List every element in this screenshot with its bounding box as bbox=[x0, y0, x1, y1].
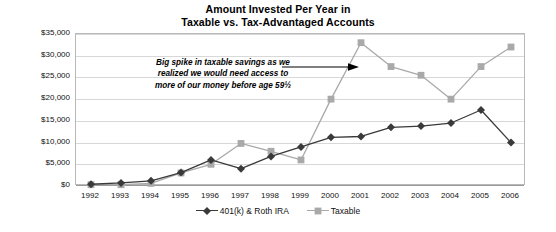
data-point-marker bbox=[388, 63, 395, 70]
x-axis-tick-label: 2006 bbox=[501, 191, 519, 200]
x-axis-labels: 1992199319941995199619971998199920002001… bbox=[75, 189, 525, 203]
legend-marker-diamond-icon bbox=[203, 207, 211, 215]
data-point-marker bbox=[387, 123, 395, 131]
data-point-marker bbox=[358, 39, 365, 46]
data-point-marker bbox=[237, 165, 245, 173]
data-point-marker bbox=[417, 122, 425, 130]
data-point-marker bbox=[238, 140, 245, 147]
data-point-marker bbox=[447, 119, 455, 127]
data-point-marker bbox=[448, 96, 455, 103]
y-axis-labels: $0$5,000$10,000$15,000$20,000$25,000$30,… bbox=[4, 33, 70, 185]
x-axis-tick-label: 1997 bbox=[231, 191, 249, 200]
x-axis-tick-label: 2001 bbox=[351, 191, 369, 200]
x-axis-tick-label: 2002 bbox=[381, 191, 399, 200]
legend-item-taxable[interactable]: Taxable bbox=[307, 205, 360, 216]
chart-title: Amount Invested Per Year in Taxable vs. … bbox=[0, 3, 556, 28]
legend-swatch bbox=[196, 205, 218, 216]
x-axis-tick-label: 2000 bbox=[321, 191, 339, 200]
x-axis-tick-label: 2003 bbox=[411, 191, 429, 200]
data-point-marker bbox=[418, 72, 425, 79]
chart-title-line-2: Taxable vs. Tax-Advantaged Accounts bbox=[0, 16, 556, 29]
x-axis-tick-label: 1998 bbox=[261, 191, 279, 200]
chart-container: Amount Invested Per Year in Taxable vs. … bbox=[0, 0, 556, 232]
legend-marker-square-icon bbox=[314, 207, 322, 215]
x-axis-tick-label: 1994 bbox=[141, 191, 159, 200]
legend-label: Taxable bbox=[331, 206, 360, 216]
x-axis-tick-label: 1992 bbox=[81, 191, 99, 200]
data-point-marker bbox=[203, 207, 211, 215]
data-point-marker bbox=[297, 143, 305, 151]
x-axis-tick-label: 2004 bbox=[441, 191, 459, 200]
x-axis-tick-label: 1993 bbox=[111, 191, 129, 200]
y-axis-tick-label: $15,000 bbox=[10, 116, 70, 124]
x-axis-tick-label: 1999 bbox=[291, 191, 309, 200]
x-axis-tick-label: 1996 bbox=[201, 191, 219, 200]
legend-item-401k-roth-ira[interactable]: 401(k) & Roth IRA bbox=[196, 205, 289, 216]
data-point-marker bbox=[298, 157, 305, 164]
series-401k-roth-ira bbox=[87, 106, 515, 188]
y-axis-tick-label: $35,000 bbox=[10, 29, 70, 37]
legend-label: 401(k) & Roth IRA bbox=[220, 206, 289, 216]
data-point-marker bbox=[328, 96, 335, 103]
data-point-marker bbox=[508, 44, 515, 51]
data-point-marker bbox=[327, 133, 335, 141]
annotation-arrow-icon bbox=[282, 62, 360, 72]
y-axis-tick-label: $10,000 bbox=[10, 138, 70, 146]
plot-area bbox=[75, 33, 525, 185]
x-axis-tick-label: 2005 bbox=[471, 191, 489, 200]
annotation-line-3: more of our money before age 59½ bbox=[118, 80, 328, 91]
y-axis-tick-label: $5,000 bbox=[10, 159, 70, 167]
chart-legend: 401(k) & Roth IRATaxable bbox=[0, 205, 556, 216]
legend-swatch bbox=[307, 205, 329, 216]
data-point-marker bbox=[314, 207, 321, 214]
y-axis-tick-label: $30,000 bbox=[10, 51, 70, 59]
chart-title-line-1: Amount Invested Per Year in bbox=[0, 3, 556, 16]
data-point-marker bbox=[478, 63, 485, 70]
y-axis-tick-label: $0 bbox=[10, 181, 70, 189]
y-axis-tick-label: $20,000 bbox=[10, 94, 70, 102]
x-axis-tick-label: 1995 bbox=[171, 191, 189, 200]
data-point-marker bbox=[357, 132, 365, 140]
y-axis-tick-label: $25,000 bbox=[10, 72, 70, 80]
